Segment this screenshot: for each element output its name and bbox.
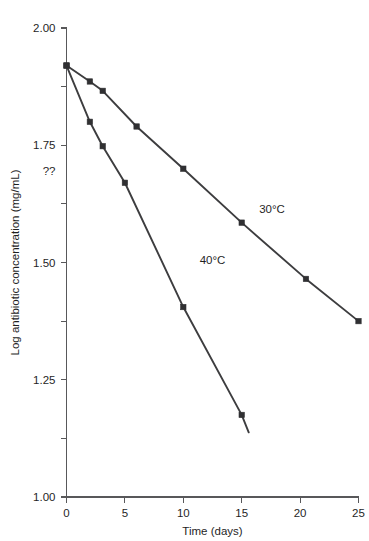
data-point-marker: [239, 220, 244, 225]
antibiotic-degradation-chart: 1.001.251.501.752.00 ?? 0510152025 30°C4…: [0, 0, 369, 541]
data-point-marker: [303, 276, 308, 281]
data-point-marker: [239, 412, 244, 417]
data-point-marker: [87, 79, 92, 84]
data-point-marker: [181, 166, 186, 171]
y-tick-label: 1.50: [33, 257, 55, 269]
x-axis-title: Time (days): [182, 525, 242, 537]
series-annotations: 30°C40°C: [200, 203, 285, 266]
series-line: [67, 66, 249, 433]
y-tick-label: 1.25: [33, 374, 55, 386]
y-tick-label: 1.75: [33, 139, 55, 151]
data-point-marker: [122, 180, 127, 185]
x-axis-ticks: [67, 497, 359, 503]
x-tick-label: 25: [352, 507, 365, 519]
series-annotation-label: 30°C: [259, 203, 285, 215]
y-axis-ticks: [61, 28, 67, 497]
y-axis-unreadable-tick-label: ??: [43, 165, 56, 177]
series-40C: [64, 63, 249, 432]
data-point-marker: [87, 119, 92, 124]
y-axis-title: Log antibiotic concentration (mg/mL): [9, 169, 21, 355]
x-tick-label: 15: [235, 507, 248, 519]
x-tick-label: 5: [122, 507, 128, 519]
data-point-marker: [100, 88, 105, 93]
plot-area: 1.001.251.501.752.00 ?? 0510152025 30°C4…: [9, 22, 365, 537]
data-point-marker: [356, 318, 361, 323]
data-point-marker: [100, 143, 105, 148]
data-point-marker: [181, 304, 186, 309]
data-point-marker: [64, 63, 69, 68]
x-tick-label: 0: [63, 507, 69, 519]
y-tick-label: 2.00: [33, 22, 55, 34]
series-line: [67, 66, 359, 322]
x-axis-tick-labels: 0510152025: [63, 507, 365, 519]
series-30C: [64, 63, 361, 324]
series-group: [64, 63, 361, 432]
x-tick-label: 10: [177, 507, 190, 519]
series-annotation-label: 40°C: [200, 254, 226, 266]
y-axis-tick-labels: 1.001.251.501.752.00: [33, 22, 55, 503]
data-point-marker: [134, 124, 139, 129]
y-tick-label: 1.00: [33, 491, 55, 503]
x-tick-label: 20: [294, 507, 307, 519]
